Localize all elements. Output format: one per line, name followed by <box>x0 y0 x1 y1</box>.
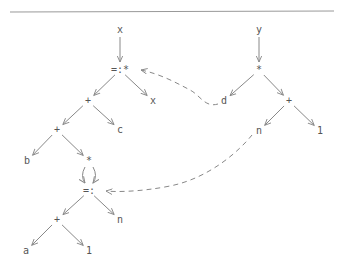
node-x-root: x <box>117 24 123 35</box>
node-c: c <box>117 124 123 135</box>
node-a: a <box>23 245 29 256</box>
edge-arrow <box>93 106 114 125</box>
edge-arrow <box>294 106 314 126</box>
node-n-left: n <box>117 214 123 225</box>
edge-arrow <box>62 225 83 246</box>
expression-dag: x=:*x++cb*=:+na1y*d+n1 <box>0 0 342 274</box>
edge-arrow <box>230 75 254 96</box>
node-b: b <box>24 155 30 166</box>
node-assign: =: <box>83 185 95 196</box>
top-rule <box>10 11 334 12</box>
edge-arrow <box>33 135 53 155</box>
edge-arrow <box>83 167 86 183</box>
node-plus2: + <box>54 124 60 135</box>
node-plus-right: + <box>286 95 292 106</box>
dashed-link <box>106 135 252 191</box>
node-assign-mul: =:* <box>111 64 129 75</box>
node-d: d <box>221 95 227 106</box>
edge-arrow <box>63 196 84 215</box>
node-x-leaf: x <box>150 95 156 106</box>
node-y-root: y <box>256 24 262 35</box>
edge-arrow <box>125 75 147 96</box>
edge-arrow <box>63 106 83 125</box>
edge-arrow <box>32 225 52 245</box>
edge-arrow <box>62 135 83 156</box>
edge-arrow <box>265 106 284 125</box>
node-plus1: + <box>85 95 91 106</box>
node-one-left: 1 <box>86 245 92 256</box>
edge-arrow <box>94 75 115 96</box>
edge-arrow <box>93 167 96 183</box>
edge-arrow <box>94 196 114 215</box>
node-mul2: * <box>86 155 92 166</box>
edge-arrow <box>264 75 284 95</box>
node-plus3: + <box>54 214 60 225</box>
node-mul-right: * <box>256 64 262 75</box>
node-n-right: n <box>256 125 262 136</box>
node-one-right: 1 <box>317 125 323 136</box>
